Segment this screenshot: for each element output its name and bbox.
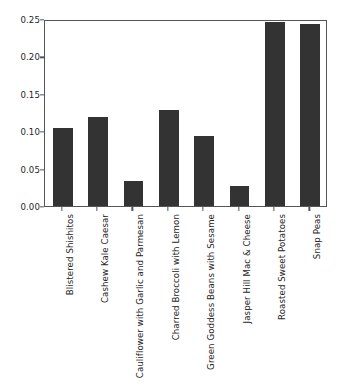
x-axis-tick-mark xyxy=(309,207,310,211)
x-axis-tick-label: Snap Peas xyxy=(313,214,322,259)
y-axis-tick-label: 0.20 xyxy=(20,53,40,62)
x-axis-tick-mark xyxy=(273,207,274,211)
bar xyxy=(194,136,214,206)
x-axis-tick-mark xyxy=(203,207,204,211)
y-axis-tick-label: 0.05 xyxy=(20,165,40,174)
y-axis-tick-label: 0.15 xyxy=(20,91,40,100)
y-axis-tick-label: 0.25 xyxy=(20,16,40,25)
x-axis-tick-label: Charred Broccoli with Lemon xyxy=(172,214,181,340)
plot-area-frame xyxy=(44,20,327,207)
y-axis-tick-label: 0.10 xyxy=(20,128,40,137)
x-axis-tick-mark xyxy=(96,207,97,211)
bar xyxy=(159,110,179,206)
bar xyxy=(88,117,108,206)
bar xyxy=(265,22,285,206)
y-axis-tick-label: 0.00 xyxy=(20,203,40,212)
bar xyxy=(230,186,250,206)
bar xyxy=(53,128,73,206)
x-axis-tick-mark xyxy=(167,207,168,211)
x-axis-tick-label: Blistered Shishitos xyxy=(66,214,75,295)
bar-chart-figure: 0.000.050.100.150.200.25 Blistered Shish… xyxy=(0,0,341,388)
bar xyxy=(300,24,320,206)
x-axis-tick-label: Jasper Hill Mac & Cheese xyxy=(243,214,252,323)
x-axis-tick-mark xyxy=(132,207,133,211)
x-axis-tick-mark xyxy=(238,207,239,211)
bar xyxy=(124,181,144,206)
x-axis-tick-label: Cauliflower with Garlic and Parmesan xyxy=(136,214,145,378)
x-axis-tick-label: Green Goddess Beans with Sesame xyxy=(207,214,216,370)
x-axis-tick-mark xyxy=(61,207,62,211)
x-axis-tick-label: Cashew Kale Caesar xyxy=(101,214,110,303)
x-axis-tick-label: Roasted Sweet Potatoes xyxy=(278,214,287,320)
